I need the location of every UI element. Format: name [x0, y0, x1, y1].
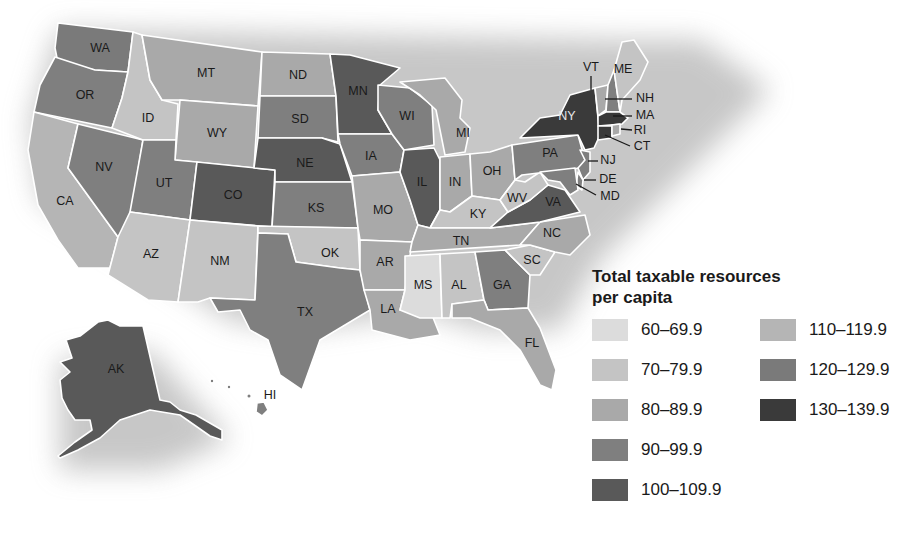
label-MT: MT [197, 66, 215, 80]
label-WY: WY [207, 126, 228, 140]
legend-label: 100–109.9 [641, 480, 721, 500]
label-NY: NY [558, 109, 576, 123]
legend-title: Total taxable resources per capita [592, 266, 912, 308]
label-TN: TN [453, 234, 470, 248]
legend-grid: 60–69.9 70–79.9 80–89.9 90–99.9 100–109.… [592, 318, 912, 518]
legend-title-line-2: per capita [592, 287, 912, 308]
label-NJ: NJ [600, 153, 615, 167]
label-MS: MS [414, 278, 433, 292]
label-DE: DE [599, 172, 616, 186]
legend-label: 120–129.9 [809, 360, 889, 380]
legend-label: 90–99.9 [641, 440, 702, 460]
state-RI[interactable] [612, 124, 620, 136]
legend-swatch [592, 359, 628, 381]
state-CT[interactable] [598, 126, 612, 140]
label-PA: PA [542, 146, 558, 160]
label-CT: CT [634, 139, 651, 153]
label-MN: MN [348, 84, 367, 98]
label-AZ: AZ [143, 247, 159, 261]
legend-item-100: 100–109.9 [592, 478, 721, 502]
label-IA: IA [365, 149, 377, 163]
label-FL: FL [525, 336, 540, 350]
map-legend: Total taxable resources per capita 60–69… [592, 266, 912, 518]
legend-swatch [760, 319, 796, 341]
label-CO: CO [224, 188, 243, 202]
label-NH: NH [636, 91, 654, 105]
label-AL: AL [451, 278, 466, 292]
label-SD: SD [291, 112, 308, 126]
legend-item-120: 120–129.9 [760, 358, 889, 382]
label-RI: RI [634, 123, 647, 137]
legend-swatch [592, 399, 628, 421]
label-SC: SC [523, 253, 540, 267]
label-KS: KS [308, 201, 325, 215]
legend-label: 70–79.9 [641, 360, 702, 380]
label-OR: OR [76, 88, 95, 102]
label-NC: NC [543, 226, 561, 240]
label-GA: GA [493, 278, 512, 292]
label-VT: VT [583, 60, 599, 74]
label-CA: CA [56, 194, 74, 208]
label-NV: NV [95, 160, 113, 174]
state-HI-island [210, 379, 214, 383]
legend-swatch [592, 319, 628, 341]
label-IN: IN [449, 175, 462, 189]
legend-swatch [592, 479, 628, 501]
legend-label: 80–89.9 [641, 400, 702, 420]
label-AK: AK [108, 362, 125, 376]
legend-item-130: 130–139.9 [760, 398, 889, 422]
label-ND: ND [289, 68, 307, 82]
label-NM: NM [210, 254, 229, 268]
legend-item-80: 80–89.9 [592, 398, 702, 422]
label-MD: MD [600, 189, 619, 203]
state-HI-island [247, 394, 252, 399]
legend-swatch [592, 439, 628, 461]
state-HI[interactable] [256, 402, 268, 416]
label-ID: ID [142, 111, 155, 125]
legend-swatch [760, 399, 796, 421]
label-AR: AR [376, 255, 393, 269]
label-KY: KY [470, 207, 487, 221]
label-LA: LA [380, 302, 396, 316]
label-IL: IL [417, 175, 427, 189]
legend-label: 60–69.9 [641, 320, 702, 340]
label-MO: MO [373, 203, 393, 217]
label-HI: HI [264, 388, 277, 402]
label-WV: WV [507, 191, 528, 205]
legend-item-110: 110–119.9 [760, 318, 887, 342]
state-HI-island [227, 385, 231, 389]
legend-item-60: 60–69.9 [592, 318, 702, 342]
legend-item-70: 70–79.9 [592, 358, 702, 382]
legend-label: 130–139.9 [809, 400, 889, 420]
legend-label: 110–119.9 [809, 320, 887, 340]
legend-item-90: 90–99.9 [592, 438, 702, 462]
legend-swatch [760, 359, 796, 381]
label-UT: UT [156, 176, 173, 190]
label-TX: TX [297, 305, 314, 319]
label-VA: VA [545, 195, 561, 209]
label-ME: ME [614, 62, 633, 76]
label-MI: MI [456, 126, 470, 140]
label-MA: MA [636, 108, 655, 122]
legend-title-line-1: Total taxable resources [592, 266, 912, 287]
label-OH: OH [483, 164, 502, 178]
label-WA: WA [90, 41, 110, 55]
label-NE: NE [296, 156, 313, 170]
label-OK: OK [321, 246, 340, 260]
label-WI: WI [399, 109, 414, 123]
